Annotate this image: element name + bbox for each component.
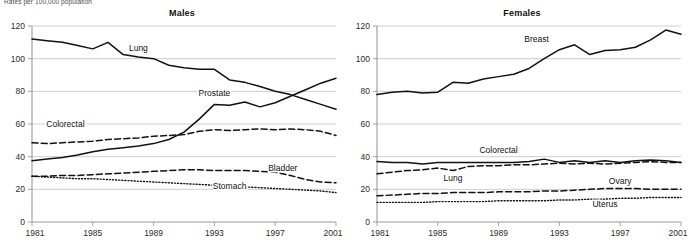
y-tick-label: 100 — [11, 54, 25, 64]
x-tick-label: 1993 — [550, 228, 569, 238]
series-label-ovary: Ovary — [609, 176, 632, 186]
series-label-colorectal: Colorectal — [479, 145, 517, 155]
x-tick-label: 1985 — [428, 228, 447, 238]
y-tick-label: 60 — [16, 119, 26, 129]
y-tick-label: 40 — [361, 152, 371, 162]
x-tick-label: 1985 — [83, 228, 102, 238]
y-tick-label: 40 — [16, 152, 26, 162]
y-tick-label: 120 — [356, 21, 370, 31]
series-line-uterus — [377, 198, 681, 203]
line-chart-males: 020406080100120198119851989199319972001L… — [0, 0, 344, 251]
series-label-bladder: Bladder — [268, 163, 297, 173]
x-tick-label: 2001 — [669, 228, 688, 238]
y-tick-label: 0 — [365, 217, 370, 227]
series-label-colorectal: Colorectal — [46, 119, 84, 129]
series-line-stomach — [32, 176, 336, 192]
y-tick-label: 80 — [361, 86, 371, 96]
x-tick-label: 1997 — [611, 228, 630, 238]
y-tick-label: 120 — [11, 21, 25, 31]
panel-males: Males 0204060801001201981198519891993199… — [0, 0, 344, 251]
x-tick-label: 1989 — [489, 228, 508, 238]
x-tick-label: 1993 — [205, 228, 224, 238]
y-tick-label: 80 — [16, 86, 26, 96]
series-label-lung: Lung — [129, 43, 148, 53]
y-tick-label: 60 — [361, 119, 371, 129]
series-line-colorectal — [32, 129, 336, 144]
series-label-lung: Lung — [444, 173, 463, 183]
y-tick-label: 0 — [20, 217, 25, 227]
series-label-stomach: Stomach — [213, 181, 247, 191]
panel-females: Females 02040608010012019811985198919931… — [344, 0, 688, 251]
x-tick-label: 1997 — [266, 228, 285, 238]
figure-root: Rates per 100,000 population Males 02040… — [0, 0, 688, 251]
y-tick-label: 20 — [16, 184, 26, 194]
y-tick-label: 100 — [356, 54, 370, 64]
x-tick-label: 1981 — [26, 228, 45, 238]
series-label-breast: Breast — [524, 34, 549, 44]
series-line-colorectal — [377, 159, 681, 164]
line-chart-females: 020406080100120198119851989199319972001B… — [344, 0, 688, 251]
series-label-prostate: Prostate — [199, 88, 231, 98]
y-tick-label: 20 — [361, 184, 371, 194]
series-line-lung — [32, 39, 336, 109]
x-tick-label: 2001 — [324, 228, 343, 238]
series-label-uterus: Uterus — [592, 199, 617, 209]
x-tick-label: 1989 — [144, 228, 163, 238]
x-tick-label: 1981 — [371, 228, 390, 238]
